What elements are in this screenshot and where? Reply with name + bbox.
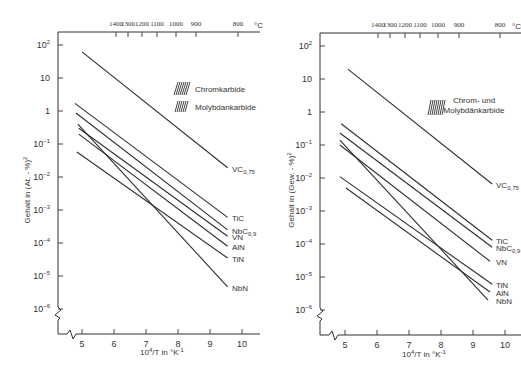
y-tick-label: 10 (302, 74, 312, 84)
y-tick-label: 10−6 (295, 304, 313, 315)
x-tick-label: 9 (207, 339, 212, 349)
series-label-vc: VC0,75 (496, 181, 519, 191)
legend-chrom-und: Chrom- und (453, 96, 495, 105)
hatch-icon-chrom-molybdankarbide (428, 100, 445, 115)
y-tick-label: 10−1 (33, 138, 51, 149)
y-tick-label: 102 (37, 39, 51, 50)
left-x-axis-label: 104/T in °K-1 (140, 347, 184, 357)
y-tick-label: 10−4 (295, 238, 313, 249)
left-top-axis-unit: °C (254, 21, 263, 30)
chart-canvas: 567891010210110−110−210−310−410−510−6140… (0, 0, 521, 377)
temp-tick-label: 1000 (431, 21, 446, 29)
series-label-vc: VC0,75 (232, 165, 255, 175)
right-series-labels: VC0,75TiCNbC0,9VNTiNAlNNbN (496, 181, 521, 306)
y-tick-label: 10−1 (295, 139, 313, 150)
bottom-axis-line-with-break (320, 331, 521, 340)
y-tick-label: 10 (40, 73, 50, 83)
series-label-nbn: NbN (232, 284, 248, 293)
right-chart-panel: 567891010210110−110−210−310−410−510−6140… (286, 21, 521, 359)
series-line-aln (79, 134, 228, 246)
temp-tick-label: 1000 (169, 20, 184, 28)
series-label-nbc: NbC0,9 (496, 244, 521, 254)
temp-tick-label: 1100 (413, 21, 427, 29)
right-y-axis-label: Gehalt in (Gew. - %)2 (286, 152, 296, 228)
temp-tick-label: 1100 (150, 20, 164, 28)
left-legend: Chromkarbide Molybdankarbide (174, 82, 256, 112)
series-label-vn: VN (496, 258, 507, 267)
left-axis-line-with-break (317, 33, 323, 335)
left-axis-line-with-break (55, 32, 61, 334)
x-tick-label: 10 (237, 339, 247, 349)
y-tick-label: 10−6 (33, 303, 51, 314)
series-line-nbc (76, 113, 228, 230)
x-tick-label: 5 (79, 339, 84, 349)
right-top-axis-unit: °C (512, 22, 521, 31)
series-line-tic (75, 103, 228, 217)
y-tick-label: 10−2 (33, 171, 51, 182)
temp-tick-label: 900 (191, 20, 202, 28)
series-line-vn (340, 145, 490, 261)
legend-molybdankarbide: Molybdankarbide (195, 103, 256, 112)
series-label-tin: TiN (232, 255, 244, 264)
left-y-axis-label: Gehalt in (At. - %)2 (22, 156, 32, 224)
series-line-vn (79, 128, 228, 236)
temp-tick-label: 900 (454, 21, 465, 29)
y-tick-label: 102 (299, 40, 313, 51)
temp-tick-label: 800 (495, 21, 506, 29)
x-tick-label: 5 (342, 340, 347, 350)
x-tick-label: 6 (111, 339, 116, 349)
y-tick-label: 10−2 (295, 172, 313, 183)
right-legend: Chrom- und Molybdänkarbide (428, 96, 505, 115)
right-x-axis-label: 104/T in °K-1 (402, 349, 446, 359)
x-tick-label: 10 (500, 340, 510, 350)
temp-tick-label: 1200 (135, 20, 150, 28)
left-chart-panel: 567891010210110−110−210−310−410−510−6140… (22, 20, 263, 357)
y-tick-label: 1 (307, 107, 312, 117)
right-axes: 567891010210110−110−210−310−410−510−6140… (295, 21, 521, 350)
y-tick-label: 10−5 (295, 271, 313, 282)
series-label-nbn: NbN (496, 297, 512, 306)
series-label-tic: TiC (232, 214, 244, 223)
bottom-axis-line-with-break (58, 330, 260, 339)
y-tick-label: 10−3 (295, 205, 313, 216)
y-tick-label: 10−3 (33, 204, 51, 215)
legend-chromkarbide: Chromkarbide (195, 85, 246, 94)
temp-tick-label: 1300 (383, 21, 398, 29)
series-line-aln (346, 188, 490, 292)
x-tick-label: 6 (374, 340, 379, 350)
y-tick-label: 10−4 (33, 237, 51, 248)
temp-tick-label: 1200 (398, 21, 413, 29)
y-tick-label: 1 (45, 106, 50, 116)
temp-tick-label: 1300 (121, 20, 136, 28)
hatch-icon-chromkarbide (174, 82, 190, 95)
series-label-aln: AlN (232, 243, 245, 252)
series-line-nbn (78, 124, 228, 287)
temp-tick-label: 800 (233, 20, 244, 28)
left-series-labels: VC0,75TiCNbC0,9VNAlNTiNNbN (232, 165, 257, 293)
legend-molybdankarbide-right: Molybdänkarbide (444, 106, 505, 115)
y-tick-label: 10−5 (33, 270, 51, 281)
series-line-vc (348, 69, 492, 184)
x-tick-label: 9 (470, 340, 475, 350)
hatch-icon-molybdankarbide (175, 101, 188, 112)
series-label-vn: VN (232, 233, 243, 242)
